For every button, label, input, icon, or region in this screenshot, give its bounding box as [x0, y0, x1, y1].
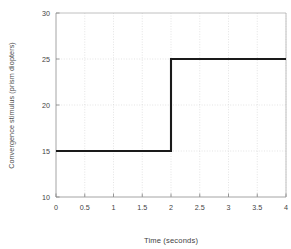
x-tick-label: 1.5 — [137, 203, 147, 212]
x-tick-labels: 00.511.522.533.54 — [54, 203, 288, 212]
x-tick-label: 0.5 — [80, 203, 90, 212]
y-tick-label: 10 — [42, 193, 50, 202]
plot-area: 00.511.522.533.54 1015202530 — [0, 0, 291, 249]
x-axis-label: Time (seconds) — [56, 229, 286, 247]
x-axis-label-text: Time (seconds) — [144, 236, 198, 245]
x-tick-label: 1 — [112, 203, 116, 212]
x-tick-label: 4 — [284, 203, 288, 212]
y-tick-label: 30 — [42, 9, 50, 18]
x-tick-label: 3 — [227, 203, 231, 212]
x-tick-label: 2.5 — [195, 203, 205, 212]
x-tick-label: 3.5 — [252, 203, 262, 212]
vertical-gridlines — [85, 13, 286, 197]
y-tick-label: 15 — [42, 147, 50, 156]
y-tick-labels: 1015202530 — [42, 9, 50, 202]
chart-figure: Convergence stimulus (prism diopters) 00… — [0, 0, 291, 249]
y-tick-label: 20 — [42, 101, 50, 110]
x-tick-label: 0 — [54, 203, 58, 212]
x-tick-label: 2 — [169, 203, 173, 212]
x-tick-marks — [56, 194, 286, 198]
y-tick-label: 25 — [42, 55, 50, 64]
y-tick-marks — [56, 13, 60, 197]
